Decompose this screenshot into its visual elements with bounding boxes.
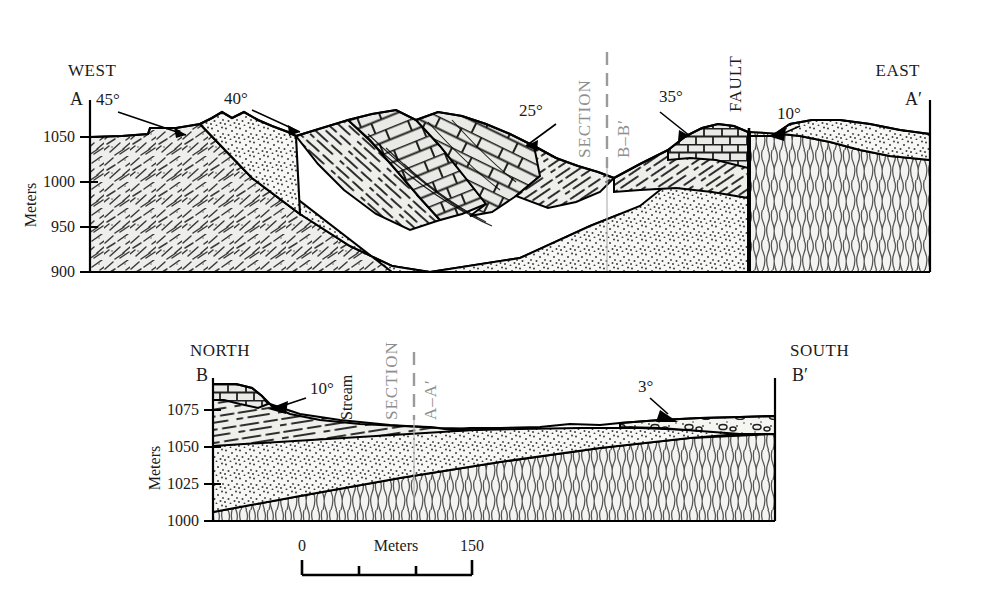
panel-b-ytick-1000: 1000 [167, 512, 199, 529]
panel-a-ytick-1000: 1000 [43, 173, 75, 190]
section-marker-bb-name: B–B′ [614, 119, 633, 158]
panel-a-label-a-prime: A′ [905, 89, 922, 109]
panel-b-ytick-1075: 1075 [167, 401, 199, 418]
panel-b-label-b-prime: B′ [792, 365, 808, 385]
panel-a-axis-label: Meters [22, 183, 39, 227]
dip-label-10-north: 10° [310, 379, 334, 398]
panel-b-label-north: NORTH [190, 341, 250, 360]
stream-label: Stream [338, 374, 355, 420]
panel-a-label-a: A [70, 89, 83, 109]
panel-a-ytick-900: 900 [51, 263, 75, 280]
panel-b-label-south: SOUTH [790, 341, 849, 360]
panel-b-label-b: B [196, 365, 208, 385]
scalebar-max: 150 [460, 537, 484, 554]
panel-a-ytick-950: 950 [51, 218, 75, 235]
panel-b-axis-label: Meters [146, 446, 163, 490]
panel-b-ytick-1025: 1025 [167, 475, 199, 492]
dip-label-45: 45° [96, 90, 120, 109]
dip-label-25: 25° [519, 101, 543, 120]
panel-a-label-west: WEST [68, 61, 116, 80]
dip-label-35: 35° [659, 87, 683, 106]
dip-label-40: 40° [224, 89, 248, 108]
fault-label: FAULT [726, 55, 745, 112]
section-marker-aa-title: SECTION [382, 341, 401, 420]
dip-label-3: 3° [638, 377, 653, 396]
panel-b-ytick-1050: 1050 [167, 438, 199, 455]
scalebar-label: Meters [374, 537, 418, 554]
geologic-cross-section-figure: 1050 1000 950 900 Meters WEST A EAST A′ … [0, 0, 985, 594]
section-marker-aa-name: A–A′ [421, 379, 440, 420]
panel-a-ytick-1050: 1050 [43, 128, 75, 145]
scalebar-min: 0 [298, 537, 306, 554]
dip-label-10-east: 10° [777, 104, 801, 123]
panel-a-label-east: EAST [876, 61, 921, 80]
section-marker-bb-title: SECTION [575, 79, 594, 158]
